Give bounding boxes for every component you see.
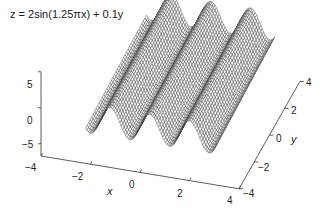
z-tick-0: 0 <box>27 115 33 126</box>
surface-plot <box>0 0 324 211</box>
x-tick-2: 2 <box>177 188 183 199</box>
chart-title: z = 2sin(1.25πx) + 0.1y <box>10 8 123 20</box>
x-tick-neg2: −2 <box>72 171 83 182</box>
y-tick-0: 0 <box>276 133 282 144</box>
z-tick-neg5: −5 <box>22 139 33 150</box>
x-tick-0: 0 <box>129 179 135 190</box>
y-tick-neg2: −2 <box>258 162 269 173</box>
x-tick-4: 4 <box>227 195 233 206</box>
z-tick-5: 5 <box>27 79 33 90</box>
surface-mesh <box>86 0 276 153</box>
y-tick-2: 2 <box>291 105 297 116</box>
y-tick-4: 4 <box>306 77 312 88</box>
x-tick-neg4: −4 <box>25 162 36 173</box>
y-tick-neg4: −4 <box>243 188 254 199</box>
x-axis-label: x <box>107 185 113 197</box>
y-axis-label: y <box>291 133 297 145</box>
